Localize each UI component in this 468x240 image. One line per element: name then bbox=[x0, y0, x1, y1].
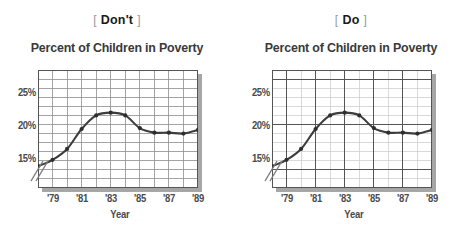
y-tick-label: 25% bbox=[9, 86, 36, 98]
x-tick-label: '89 bbox=[420, 192, 443, 204]
x-tick-label: '79 bbox=[41, 192, 64, 204]
axis-break-icon bbox=[28, 158, 50, 184]
caption-dont: [Don't] bbox=[0, 13, 234, 27]
axis-break-icon bbox=[262, 158, 284, 184]
plot-canvas bbox=[38, 70, 198, 188]
bracket-close: ] bbox=[137, 13, 141, 27]
y-tick-label: 20% bbox=[243, 119, 270, 131]
plot-area-do bbox=[272, 70, 432, 188]
line-chart-do bbox=[272, 70, 432, 188]
caption-do: [Do] bbox=[234, 13, 468, 27]
x-tick-label: '85 bbox=[362, 192, 385, 204]
x-tick-label: '79 bbox=[275, 192, 298, 204]
panel-do: [Do] Percent of Children in Poverty 25% … bbox=[234, 0, 468, 240]
bracket-open: [ bbox=[335, 13, 339, 27]
plot-area-dont bbox=[38, 70, 198, 188]
x-axis-label: Year bbox=[280, 208, 428, 220]
bracket-close: ] bbox=[364, 13, 368, 27]
x-axis-ticks-dont: '79 '81 '83 '85 '87 '89 bbox=[38, 192, 206, 208]
bracket-open: [ bbox=[93, 13, 97, 27]
y-tick-label: 25% bbox=[243, 86, 270, 98]
plot-canvas bbox=[272, 70, 432, 188]
x-axis-ticks-do: '79 '81 '83 '85 '87 '89 bbox=[272, 192, 440, 208]
x-tick-label: '87 bbox=[157, 192, 180, 204]
panel-dont: [Don't] Percent of Children in Poverty 2… bbox=[0, 0, 234, 240]
x-tick-label: '83 bbox=[99, 192, 122, 204]
chart-title: Percent of Children in Poverty bbox=[9, 40, 224, 55]
y-tick-label: 20% bbox=[9, 119, 36, 131]
caption-label: Don't bbox=[101, 13, 133, 27]
caption-label: Do bbox=[342, 13, 359, 27]
chart-title: Percent of Children in Poverty bbox=[243, 40, 458, 55]
x-tick-label: '87 bbox=[391, 192, 414, 204]
x-tick-label: '89 bbox=[186, 192, 209, 204]
x-axis-label: Year bbox=[46, 208, 194, 220]
line-chart-dont bbox=[38, 70, 198, 188]
x-tick-label: '85 bbox=[128, 192, 151, 204]
x-tick-label: '83 bbox=[333, 192, 356, 204]
x-tick-label: '81 bbox=[70, 192, 93, 204]
figure-root: [Don't] Percent of Children in Poverty 2… bbox=[0, 0, 468, 240]
x-tick-label: '81 bbox=[304, 192, 327, 204]
